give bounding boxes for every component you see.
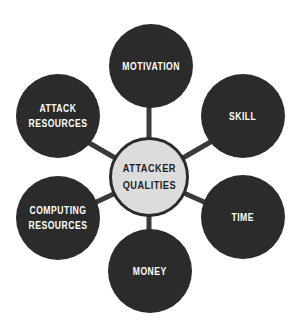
node-time: TIME [201,175,285,259]
node-attack-resources: ATTACK RESOURCES [16,74,100,158]
node-label: MOTIVATION [122,59,180,74]
node-label-line1: COMPUTING [29,203,88,218]
center-label-line1: ATTACKER [122,160,175,177]
node-computing-resources: COMPUTING RESOURCES [16,176,100,260]
center-label-line2: QUALITIES [122,177,175,194]
center-node-attacker-qualities: ATTACKER QUALITIES [109,137,189,217]
node-skill: SKILL [201,74,285,158]
node-label-line1: ATTACK [29,101,88,116]
node-label: TIME [232,210,255,225]
node-money: MONEY [108,229,192,313]
node-motivation: MOTIVATION [109,24,193,108]
node-label: SKILL [229,109,256,124]
node-label-line2: RESOURCES [29,218,88,233]
node-label-line2: RESOURCES [29,116,88,131]
attacker-qualities-diagram: MOTIVATION SKILL TIME MONEY COMPUTING RE… [0,0,300,328]
node-label: MONEY [133,264,167,279]
